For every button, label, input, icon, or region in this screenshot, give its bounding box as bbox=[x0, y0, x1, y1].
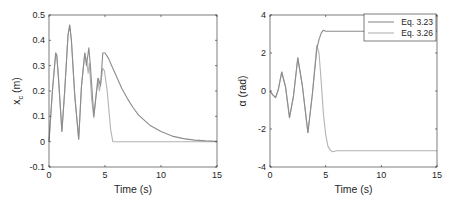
y-tick-label: -2 bbox=[258, 124, 266, 134]
y-tick-label: 4 bbox=[261, 10, 266, 20]
x-tick-label: 5 bbox=[323, 170, 328, 180]
series-line-eq-3-23 bbox=[270, 30, 437, 133]
plot-cart-position: 051015-0.100.10.20.30.40.5Time (s)xc (m) bbox=[10, 10, 222, 195]
y-tick-label: 0.1 bbox=[32, 111, 45, 121]
x-tick-label: 5 bbox=[102, 170, 107, 180]
y-tick-label: -0.1 bbox=[29, 162, 45, 172]
series-line-eq-3-23 bbox=[49, 25, 217, 142]
x-axis-label: Time (s) bbox=[114, 183, 152, 195]
plot-pendulum-angle: 051015-4-2024Time (s)α (rad)Eq. 3.23Eq. … bbox=[236, 10, 442, 195]
x-axis-label: Time (s) bbox=[334, 183, 372, 195]
series-line-eq-3-26 bbox=[270, 45, 437, 151]
x-tick-label: 15 bbox=[212, 170, 222, 180]
y-tick-label: 0 bbox=[40, 137, 45, 147]
legend-label: Eq. 3.26 bbox=[401, 28, 433, 38]
figure: 051015-0.100.10.20.30.40.5Time (s)xc (m)… bbox=[0, 0, 455, 206]
x-tick-label: 0 bbox=[46, 170, 51, 180]
x-tick-label: 10 bbox=[376, 170, 386, 180]
y-axis-label: α (rad) bbox=[236, 75, 248, 106]
y-tick-label: -4 bbox=[258, 162, 266, 172]
y-tick-label: 0.3 bbox=[32, 61, 45, 71]
y-tick-label: 0.2 bbox=[32, 86, 45, 96]
legend: Eq. 3.23Eq. 3.26 bbox=[364, 14, 436, 41]
y-tick-label: 0.4 bbox=[32, 35, 45, 45]
x-tick-label: 15 bbox=[432, 170, 442, 180]
legend-label: Eq. 3.23 bbox=[401, 17, 433, 27]
y-tick-label: 2 bbox=[261, 48, 266, 58]
x-tick-label: 0 bbox=[267, 170, 272, 180]
y-tick-label: 0 bbox=[261, 86, 266, 96]
y-axis-label: xc (m) bbox=[10, 77, 25, 105]
x-tick-label: 10 bbox=[156, 170, 166, 180]
y-tick-label: 0.5 bbox=[32, 10, 45, 20]
